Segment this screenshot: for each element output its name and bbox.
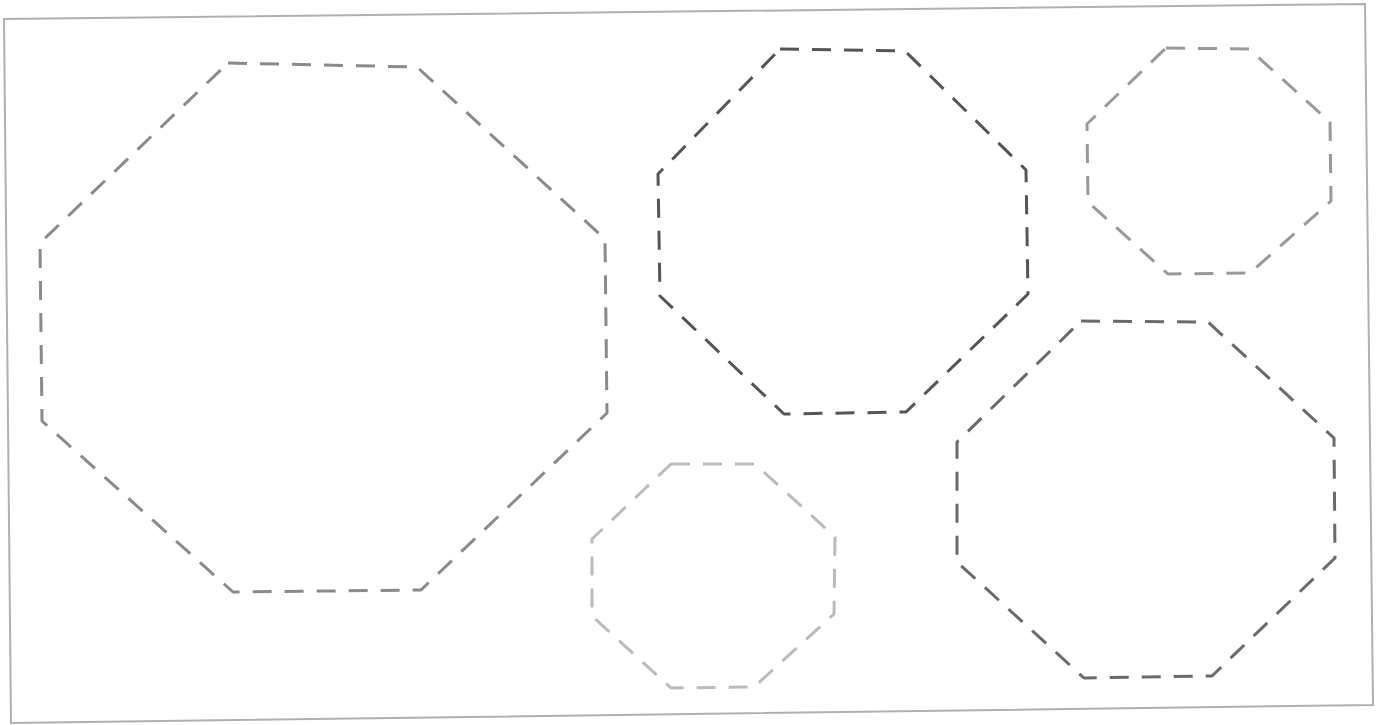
frame-border xyxy=(4,4,1373,723)
octagon-top-middle xyxy=(658,49,1028,414)
octagon-top-right-small xyxy=(1087,48,1331,274)
octagon-bottom-middle-small xyxy=(592,464,835,688)
octagon-large-left xyxy=(40,63,607,592)
diagram-canvas xyxy=(0,0,1383,725)
octagon-bottom-right xyxy=(957,321,1335,678)
